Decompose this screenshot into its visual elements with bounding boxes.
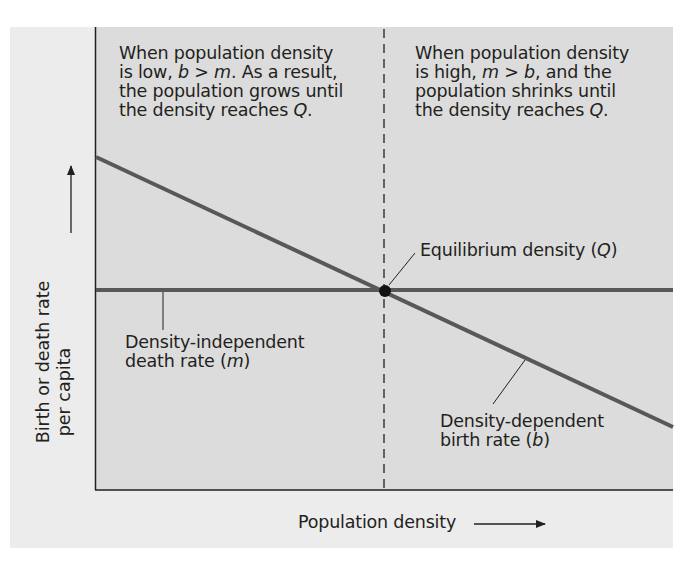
equilibrium-label: Equilibrium density (Q) xyxy=(420,241,617,260)
y-axis-label: Birth or death rate per capita xyxy=(33,252,75,472)
birth-rate-label: Density-dependent birth rate (b) xyxy=(440,412,604,450)
low-density-annotation: When population density is low, b > m. A… xyxy=(119,44,343,120)
equilibrium-point xyxy=(379,285,391,297)
y-axis-label-line2: per capita xyxy=(54,252,75,472)
birth-rate-leader xyxy=(493,360,525,404)
high-density-line4: the density reaches Q. xyxy=(415,101,629,120)
birth-rate-label-line2: birth rate (b) xyxy=(440,431,604,450)
death-rate-label-line1: Density-independent xyxy=(125,333,304,352)
death-rate-label: Density-independent death rate (m) xyxy=(125,333,304,371)
low-density-line4: the density reaches Q. xyxy=(119,101,343,120)
x-axis-label: Population density xyxy=(298,513,456,532)
high-density-line2: is high, m > b, and the xyxy=(415,63,629,82)
y-axis-label-line1: Birth or death rate xyxy=(33,252,54,472)
birth-rate-label-line1: Density-dependent xyxy=(440,412,604,431)
high-density-line1: When population density xyxy=(415,44,629,63)
low-density-line2: is low, b > m. As a result, xyxy=(119,63,343,82)
death-rate-label-line2: death rate (m) xyxy=(125,352,304,371)
high-density-line3: population shrinks until xyxy=(415,82,629,101)
equilibrium-leader xyxy=(389,253,415,285)
high-density-annotation: When population density is high, m > b, … xyxy=(415,44,629,120)
low-density-line1: When population density xyxy=(119,44,343,63)
low-density-line3: the population grows until xyxy=(119,82,343,101)
